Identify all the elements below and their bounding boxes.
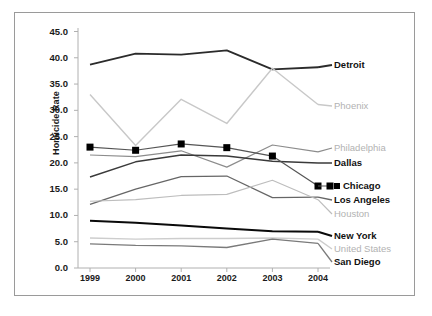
legend-item-label: Chicago: [343, 180, 380, 191]
legend-leader-phoenix: [318, 105, 332, 106]
legend-item-label: San Diego: [334, 256, 380, 267]
legend-item-los-angeles[interactable]: Los Angeles: [334, 194, 390, 205]
legend-leader-marker: [327, 183, 334, 190]
x-tick-label: 2004: [291, 273, 345, 283]
y-tick-label: 10.0: [22, 209, 68, 220]
y-tick-label: 20.0: [22, 157, 68, 168]
legend-leader-new-york: [318, 232, 332, 236]
series-marker-chicago: [132, 147, 139, 154]
legend-item-label: Los Angeles: [334, 194, 390, 205]
legend-leader-houston: [318, 200, 332, 214]
legend-item-label: New York: [334, 230, 376, 241]
legend-item-label: Phoenix: [334, 100, 368, 111]
legend-item-detroit[interactable]: Detroit: [334, 59, 365, 70]
series-marker-chicago: [87, 144, 94, 151]
legend-leader-san-diego: [318, 243, 332, 262]
legend-item-label: Philadelphia: [334, 142, 386, 153]
legend-item-label: United States: [334, 243, 391, 254]
legend-marker-icon: [334, 183, 340, 189]
series-line-united-states: [90, 238, 318, 239]
legend-item-dallas[interactable]: Dallas: [334, 157, 362, 168]
legend-leader-united-states: [318, 239, 332, 249]
series-marker-chicago: [178, 140, 185, 147]
y-tick-label: 40.0: [22, 52, 68, 63]
legend-item-san-diego[interactable]: San Diego: [334, 256, 380, 267]
legend-leader-lines: [318, 65, 334, 262]
y-tick-label: 0.0: [22, 262, 68, 273]
series-marker-chicago: [269, 153, 276, 160]
legend-leader-los-angeles: [318, 197, 332, 200]
series-marker-chicago: [223, 144, 230, 151]
legend-item-chicago[interactable]: Chicago: [334, 180, 380, 191]
legend-item-houston[interactable]: Houston: [334, 208, 369, 219]
legend-item-phoenix[interactable]: Phoenix: [334, 100, 368, 111]
y-tick-label: 25.0: [22, 131, 68, 142]
series-line-new-york: [90, 221, 318, 232]
y-tick-label: 35.0: [22, 78, 68, 89]
series-line-detroit: [90, 50, 318, 69]
chart-series-lines: [90, 50, 318, 247]
legend-item-label: Dallas: [334, 157, 362, 168]
y-tick-label: 45.0: [22, 26, 68, 37]
legend-leader-detroit: [318, 65, 332, 67]
series-line-houston: [90, 180, 318, 201]
y-tick-label: 30.0: [22, 104, 68, 115]
legend-item-label: Detroit: [334, 59, 365, 70]
legend-item-philadelphia[interactable]: Philadelphia: [334, 142, 386, 153]
y-tick-label: 5.0: [22, 236, 68, 247]
legend-item-new-york[interactable]: New York: [334, 230, 376, 241]
series-line-phoenix: [90, 68, 318, 145]
legend-item-united-states[interactable]: United States: [334, 243, 391, 254]
legend-item-label: Houston: [334, 208, 369, 219]
axis-tick-marks: [74, 32, 318, 273]
series-line-san-diego: [90, 239, 318, 247]
y-tick-label: 15.0: [22, 183, 68, 194]
legend-leader-philadelphia: [318, 148, 332, 152]
